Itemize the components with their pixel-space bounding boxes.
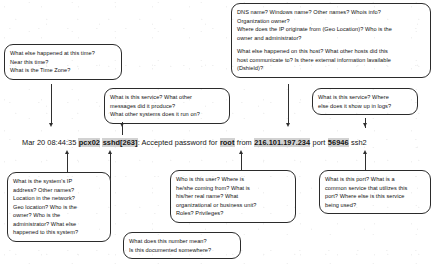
callout-line: What is the system's IP — [13, 177, 105, 186]
log-text: Mar 20 08:44:35 — [22, 138, 78, 147]
callout-port-questions: What is this port? What is a common serv… — [319, 170, 431, 214]
callout-line: Roles? Privileges? — [176, 209, 290, 218]
callout-timestamp-questions: What else happened at this time? Near th… — [4, 44, 122, 80]
callout-host-questions: DNS name? Windows name? Other names? Who… — [231, 3, 431, 78]
arrowhead-host — [286, 123, 290, 127]
callout-line: port? Where else is this service — [325, 192, 425, 201]
callout-line: Location in the network? — [13, 194, 105, 203]
callout-user-questions: Who is this user? Where is he/she coming… — [170, 170, 296, 223]
callout-pid-questions: What does this number mean? Is this docu… — [123, 232, 241, 259]
log-text: : Accepted password for — [138, 138, 220, 147]
callout-line: organizational or business unit? — [176, 201, 290, 210]
connector-host — [288, 84, 289, 124]
log-field-highlighted: 216.101.197.234 — [254, 138, 311, 147]
callout-line: owner? Who is the — [13, 211, 105, 220]
callout-protocol-questions: What is this service? Where else does it… — [312, 88, 418, 115]
callout-line: owner and administrator? — [237, 34, 425, 43]
callout-line: What else happened on this host? What ot… — [237, 47, 425, 56]
callout-line: messages did it produce? — [110, 102, 224, 111]
callout-line: Where does the IP originate from (Geo Lo… — [237, 25, 425, 34]
callout-line: What is this service? Where — [318, 93, 412, 102]
callout-line: Near this time? — [10, 58, 116, 67]
log-text: port — [310, 138, 327, 147]
callout-line: Geo location? Who is the — [13, 203, 105, 212]
callout-process-questions: What is this service? What other message… — [104, 88, 230, 124]
arrowhead-pid — [108, 150, 112, 154]
callout-line: Is this documented somewhere? — [129, 246, 235, 255]
log-field-highlighted: 56946 — [328, 138, 349, 147]
callout-line: What does this number mean? — [129, 237, 235, 246]
callout-line: Who is this user? Where is — [176, 175, 290, 184]
connector-user — [241, 152, 242, 170]
callout-line: administrator? What else — [13, 220, 105, 229]
callout-system-identity-questions: What is the system's IP address? Other n… — [7, 172, 111, 242]
arrowhead-port — [363, 150, 367, 154]
callout-line: What is the Time Zone? — [10, 66, 116, 75]
callout-line: else does it show up in logs? — [318, 102, 412, 111]
log-field-highlighted: sshd[263] — [102, 138, 137, 147]
arrowhead-timestamp — [49, 123, 53, 127]
arrowhead-protocol — [363, 123, 367, 127]
arrowhead-user — [239, 150, 243, 154]
callout-line: Organization owner? — [237, 17, 425, 26]
callout-line: he/she coming from? What is — [176, 184, 290, 193]
log-text: from — [235, 138, 254, 147]
log-annotation-diagram: What else happened at this time? Near th… — [0, 0, 434, 267]
callout-line: DNS name? Windows name? Other names? Who… — [237, 8, 425, 17]
connector-system-identity — [67, 152, 68, 172]
callout-line: address? Other names? — [13, 186, 105, 195]
callout-line: What is this port? What is a — [325, 175, 425, 184]
callout-line: common service that utilizes this — [325, 184, 425, 193]
callout-line: happened to this system? — [13, 228, 105, 237]
callout-line: his/her real name? What — [176, 192, 290, 201]
connector-port — [365, 152, 366, 172]
arrowhead-process — [120, 123, 124, 127]
log-text: ssh2 — [349, 138, 367, 147]
callout-line: host communicate to? Is there external i… — [237, 56, 425, 65]
callout-line: What other systems does it run on? — [110, 110, 224, 119]
arrowhead-system-identity — [65, 150, 69, 154]
log-field-highlighted: root — [220, 138, 235, 147]
callout-line: What is this service? What other — [110, 93, 224, 102]
connector-timestamp — [51, 84, 52, 124]
log-field-highlighted: pcx02 — [78, 138, 100, 147]
callout-line: being used? — [325, 201, 425, 210]
syslog-entry: Mar 20 08:44:35 pcx02 sshd[263]: Accepte… — [22, 138, 367, 147]
callout-line: (Dshield)? — [237, 64, 425, 73]
callout-line: What else happened at this time? — [10, 49, 116, 58]
